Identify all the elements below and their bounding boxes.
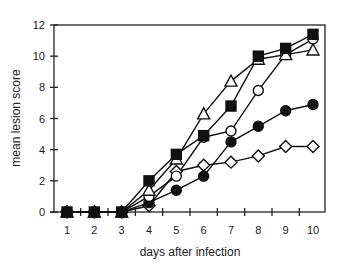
marker-circle-filled [253,121,263,131]
series-line [67,50,313,212]
marker-diamond-open [307,141,319,153]
y-tick-label: 10 [33,50,45,62]
marker-square-filled [226,101,236,111]
marker-circle-filled [226,137,236,147]
x-tick-label: 10 [307,224,319,236]
marker-circle-open [171,171,181,181]
series-circle-open [67,39,313,212]
x-tick-label: 2 [91,224,97,236]
marker-square-filled [281,43,291,53]
marker-triangle-open [307,44,319,55]
marker-circle-open [226,126,236,136]
x-axis-label: days after infection [140,245,241,259]
y-tick-label: 0 [39,206,45,218]
y-tick-label: 2 [39,175,45,187]
x-tick-label: 9 [283,224,289,236]
y-tick-label: 4 [39,144,45,156]
x-tick-label: 6 [201,224,207,236]
x-tick-label: 3 [119,224,125,236]
markers-triangle-open [61,44,319,217]
marker-diamond-open [225,156,237,168]
y-tick-label: 12 [33,19,45,31]
marker-circle-open [253,85,263,95]
marker-square-filled [89,207,99,217]
marker-square-filled [253,51,263,61]
marker-circle-filled [281,106,291,116]
series-line [67,39,313,212]
marker-square-filled [144,176,154,186]
marker-diamond-open [252,150,264,162]
series-square-filled [67,34,313,212]
marker-triangle-open [225,75,237,86]
series-circle-filled [67,104,313,212]
x-tick-label: 5 [173,224,179,236]
series-line [67,104,313,212]
x-tick-label: 7 [228,224,234,236]
marker-circle-filled [199,171,209,181]
series-triangle-open [67,50,313,212]
series-line [67,34,313,212]
markers-square-filled [62,29,318,217]
marker-diamond-open [280,141,292,153]
marker-square-filled [62,207,72,217]
y-axis-label: mean lesion score [9,69,23,167]
y-tick-label: 6 [39,113,45,125]
x-tick-label: 4 [146,224,152,236]
x-tick-label: 8 [255,224,261,236]
marker-square-filled [117,207,127,217]
x-tick-label: 1 [64,224,70,236]
marker-square-filled [308,29,318,39]
markers-circle-filled [62,99,318,217]
line-chart: 02468101212345678910 mean lesion score d… [0,0,340,273]
marker-square-filled [199,131,209,141]
marker-square-filled [171,149,181,159]
data-series [61,29,319,218]
marker-circle-filled [171,185,181,195]
marker-diamond-open [198,159,210,171]
y-tick-label: 8 [39,81,45,93]
marker-circle-filled [308,99,318,109]
